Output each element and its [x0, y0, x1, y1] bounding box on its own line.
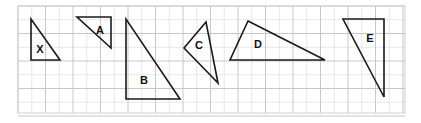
- triangle-x-label: X: [36, 43, 44, 55]
- figure-canvas: XABCDE: [0, 0, 421, 123]
- triangle-e-label: E: [366, 32, 373, 44]
- triangle-d-label: D: [254, 38, 262, 50]
- grid-layer: [18, 6, 405, 116]
- triangle-c-label: C: [195, 39, 203, 51]
- triangle-a-label: A: [96, 24, 104, 36]
- grid-background: [18, 6, 405, 113]
- triangle-b-label: B: [140, 74, 148, 86]
- triangles-diagram: XABCDE: [0, 0, 421, 123]
